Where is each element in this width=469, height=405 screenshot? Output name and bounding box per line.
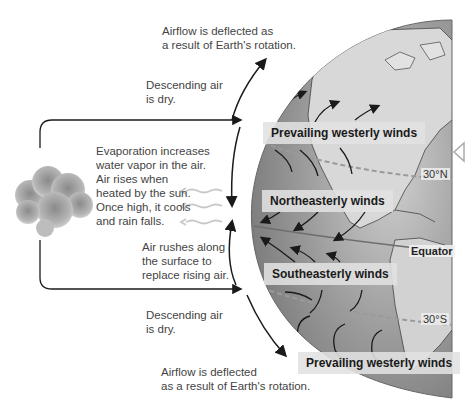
latitude-label-30s: 30°S bbox=[421, 313, 449, 325]
descending-arrow-north bbox=[232, 127, 240, 205]
evaporation-note: Evaporation increases water vapor in the… bbox=[96, 144, 210, 228]
deflection-note-bottom: Airflow is deflected as a result of Eart… bbox=[161, 365, 310, 393]
cloud-icon bbox=[15, 166, 93, 237]
descending-air-note-bottom: Descending air is dry. bbox=[146, 308, 223, 336]
wind-circulation-diagram: Airflow is deflected as a result of Eart… bbox=[0, 0, 469, 405]
diagram-artwork bbox=[0, 0, 469, 405]
wind-label-prevailing-westerly-north: Prevailing westerly winds bbox=[263, 122, 425, 144]
deflection-arrow-top bbox=[232, 60, 265, 120]
descending-air-note-top: Descending air is dry. bbox=[146, 78, 223, 106]
deflection-note-top: Airflow is deflected as a result of Eart… bbox=[162, 24, 296, 52]
equator-label: Equator bbox=[409, 245, 455, 257]
surface-air-note: Air rushes along the surface to replace … bbox=[142, 240, 229, 282]
wind-label-prevailing-westerly-south: Prevailing westerly winds bbox=[298, 352, 460, 374]
triangle-left-icon[interactable] bbox=[452, 141, 466, 163]
rising-arrow-south bbox=[229, 222, 236, 285]
latitude-label-30n: 30°N bbox=[421, 168, 450, 180]
wind-label-southeasterly: Southeasterly winds bbox=[264, 263, 397, 285]
wind-label-northeasterly: Northeasterly winds bbox=[262, 190, 393, 212]
